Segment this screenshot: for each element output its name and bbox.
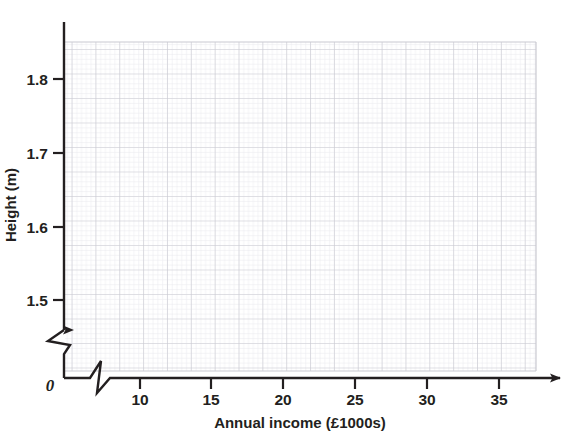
origin-label: 0 (46, 376, 55, 395)
y-tick-label-1-6: 1.6 (26, 219, 48, 236)
x-axis-ticks (140, 378, 499, 389)
x-tick-label-10: 10 (131, 391, 148, 408)
y-tick-label-1-5: 1.5 (26, 292, 48, 309)
x-tick-label-15: 15 (202, 391, 220, 408)
y-tick-label-1-8: 1.8 (26, 71, 48, 88)
y-axis-ticks (53, 79, 64, 300)
y-axis-title: Height (m) (2, 168, 19, 242)
scatter-graph-grid: 1.8 1.7 1.6 1.5 10 15 20 25 30 35 0 Annu… (0, 0, 569, 438)
x-tick-label-25: 25 (346, 391, 364, 408)
y-tick-label-1-7: 1.7 (26, 145, 48, 162)
grid-lines (65, 42, 536, 371)
x-tick-label-20: 20 (274, 391, 291, 408)
x-tick-label-30: 30 (418, 391, 435, 408)
x-tick-label-35: 35 (490, 391, 508, 408)
chart-canvas: 1.8 1.7 1.6 1.5 10 15 20 25 30 35 0 Annu… (0, 0, 569, 438)
x-axis-title: Annual income (£1000s) (214, 414, 386, 431)
